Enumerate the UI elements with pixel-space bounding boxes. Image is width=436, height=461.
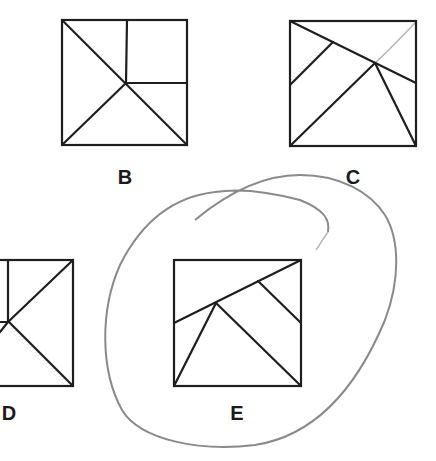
selection-loop [105, 175, 396, 447]
figure-canvas: B C D E [0, 0, 436, 461]
panel-b: B [62, 20, 187, 188]
loop-tail-stroke [316, 232, 328, 250]
panel-e: E [174, 260, 301, 424]
square-d-segment [0, 322, 8, 332]
label-d: D [2, 402, 16, 424]
square-e-segment [174, 260, 301, 323]
label-e: E [230, 402, 243, 424]
square-e-segment [258, 281, 301, 323]
panel-c: C [290, 21, 416, 188]
panel-d: D [0, 260, 73, 424]
square-c-segment [290, 21, 416, 83]
square-e-segment [174, 303, 216, 386]
square-d-segment [8, 260, 73, 322]
square-b-segment [62, 83, 126, 145]
stray-curve-c [375, 22, 416, 63]
square-e-segment [216, 303, 301, 386]
label-b: B [118, 166, 132, 188]
square-c-segment [290, 42, 333, 85]
loop-outer-stroke [105, 175, 396, 447]
square-c-segment [290, 63, 375, 146]
square-b-segment [126, 20, 127, 83]
square-d-segment [9, 322, 73, 386]
label-c: C [346, 166, 360, 188]
square-c-segment [375, 63, 416, 146]
